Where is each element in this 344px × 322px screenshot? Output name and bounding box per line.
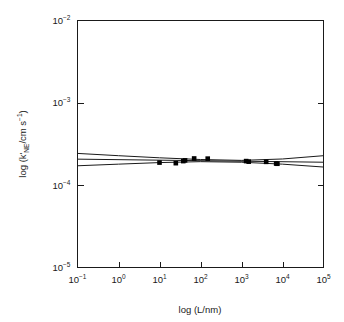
scatter-plot-svg: 10−1100101102103104105 10−210−310−410−5 … [0, 0, 344, 322]
confidence-band-lower [78, 162, 324, 167]
data-point [192, 156, 197, 161]
data-point [157, 160, 162, 165]
y-axis-tick-labels: 10−210−310−410−5 [53, 14, 71, 273]
tick-label: 10−1 [69, 273, 87, 285]
plot-frame [78, 21, 324, 268]
data-point [275, 161, 280, 166]
y-axis-title: log (k'NE/cm s−1) [16, 110, 30, 177]
data-point [264, 160, 269, 165]
data-point [246, 159, 251, 164]
chart-figure: 10−1100101102103104105 10−210−310−410−5 … [0, 0, 344, 322]
tick-label: 103 [234, 273, 249, 285]
y-axis-tickmarks [78, 104, 324, 186]
tick-label: 105 [316, 273, 331, 285]
tick-label: 10−2 [53, 14, 71, 26]
svg-text:log (k'NE/cm s−1): log (k'NE/cm s−1) [16, 110, 30, 177]
tick-label: 10−5 [53, 261, 71, 273]
tick-label: 10−4 [53, 179, 71, 191]
tick-label: 10−3 [53, 96, 71, 108]
tick-label: 102 [193, 273, 208, 285]
tick-label: 101 [152, 273, 167, 285]
x-axis-tickmarks [120, 262, 284, 268]
data-point [205, 156, 210, 161]
tick-label: 100 [111, 273, 126, 285]
svg-text:log (L/nm): log (L/nm) [179, 304, 222, 315]
tick-label: 104 [275, 273, 290, 285]
data-point [174, 161, 179, 166]
x-axis-tick-labels: 10−1100101102103104105 [69, 273, 331, 285]
x-axis-title: log (L/nm) [179, 304, 222, 315]
data-point [183, 158, 188, 163]
